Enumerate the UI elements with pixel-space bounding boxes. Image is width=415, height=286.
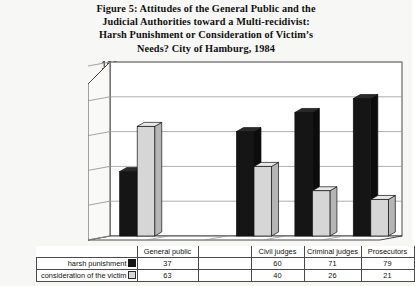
chart-svg <box>88 58 406 246</box>
header-blank-category <box>198 246 251 258</box>
cell-victim-general-public: 63 <box>137 270 198 282</box>
header-civil-judges: Civil judges <box>251 246 304 258</box>
header-general-public: General public <box>137 246 198 258</box>
table-row: consideration of the victim 63 40 26 21 <box>37 270 415 282</box>
bar-chart-plot <box>88 58 406 246</box>
title-line-4: Needs? City of Hamburg, 1984 <box>0 42 412 55</box>
figure-title: Figure 5: Attitudes of the General Publi… <box>0 2 412 55</box>
row-label-text: consideration of the victim <box>41 271 126 280</box>
row-label-harsh-punishment: harsh punishment <box>37 258 138 270</box>
cell-victim-civil-judges: 40 <box>251 270 304 282</box>
title-line-2: Judicial Authorities toward a Multi-reci… <box>0 15 412 28</box>
dark-square-icon <box>128 259 136 267</box>
cell-harsh-prosecutors: 79 <box>361 258 414 270</box>
table-row: harsh punishment 37 60 71 79 <box>37 258 415 270</box>
cell-harsh-general-public: 37 <box>137 258 198 270</box>
table-header-row: General public Civil judges Criminal jud… <box>37 246 415 258</box>
cell-harsh-civil-judges: 60 <box>251 258 304 270</box>
data-table: General public Civil judges Criminal jud… <box>36 246 415 282</box>
light-square-icon <box>128 271 136 279</box>
cell-victim-blank <box>198 270 251 282</box>
row-label-text: harsh punishment <box>68 259 127 268</box>
row-label-consideration-of-victim: consideration of the victim <box>37 270 138 282</box>
cell-harsh-blank <box>198 258 251 270</box>
header-criminal-judges: Criminal judges <box>304 246 361 258</box>
cell-harsh-criminal-judges: 71 <box>304 258 361 270</box>
header-prosecutors: Prosecutors <box>361 246 414 258</box>
cell-victim-criminal-judges: 26 <box>304 270 361 282</box>
cell-victim-prosecutors: 21 <box>361 270 414 282</box>
title-line-1: Figure 5: Attitudes of the General Publi… <box>0 2 412 15</box>
header-corner-blank <box>37 246 138 258</box>
title-line-3: Harsh Punishment or Consideration of Vic… <box>0 28 412 41</box>
